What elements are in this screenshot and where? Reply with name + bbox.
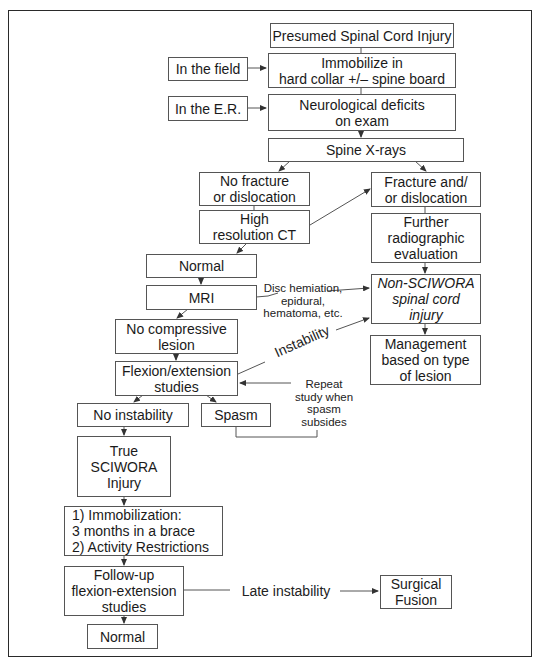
node-true-sciwora: True SCIWORA Injury xyxy=(77,436,171,497)
node-no-fracture: No fracture or dislocation xyxy=(199,172,310,206)
node-spine-xrays: Spine X-rays xyxy=(268,138,464,162)
node-immobilize: Immobilize in hard collar +/– spine boar… xyxy=(268,53,456,88)
node-management: Management based on type of lesion xyxy=(370,335,481,385)
node-high-res-ct: High resolution CT xyxy=(199,210,310,244)
node-no-compressive-lesion: No compressive lesion xyxy=(115,319,238,354)
node-fracture: Fracture and/ or dislocation xyxy=(371,172,481,207)
node-in-the-field: In the field xyxy=(168,57,248,81)
node-mri: MRI xyxy=(146,285,257,310)
node-surgical-fusion: Surgical Fusion xyxy=(380,575,452,609)
node-further-radiographic: Further radiographic evaluation xyxy=(371,213,481,263)
edge-label-repeat-study: Repeat study when spasm subsides xyxy=(284,378,364,428)
node-presumed-sci: Presumed Spinal Cord Injury xyxy=(270,23,454,48)
node-follow-up: Follow-up flexion-extension studies xyxy=(64,566,184,616)
node-immobilization-plan: 1) Immobilization: 3 months in a brace 2… xyxy=(64,506,223,556)
node-neuro-deficits: Neurological deficits on exam xyxy=(268,94,456,131)
node-flexion-extension: Flexion/extension studies xyxy=(115,361,238,396)
node-normal-lower: Normal xyxy=(87,624,158,649)
node-non-sciwora: Non-SCIWORA spinal cord injury xyxy=(371,274,481,324)
node-in-the-er: In the E.R. xyxy=(168,96,248,121)
node-normal-upper: Normal xyxy=(146,254,257,278)
edge-label-disc-herniation: Disc hemiation, epidural, hematoma, etc. xyxy=(258,282,348,320)
node-no-instability: No instability xyxy=(77,403,189,427)
edge-label-late-instability: Late instability xyxy=(236,583,336,599)
node-spasm: Spasm xyxy=(201,403,271,427)
